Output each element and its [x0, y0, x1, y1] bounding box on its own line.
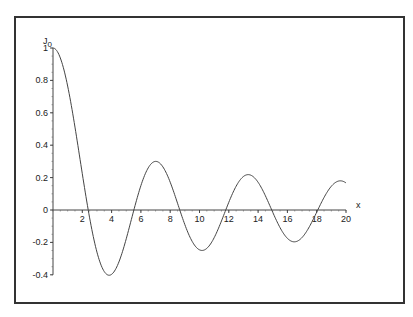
- x-tick-label: 6: [138, 214, 143, 224]
- y-tick-label: 0: [43, 205, 48, 215]
- axes: [53, 48, 346, 275]
- x-tick-label: 14: [253, 214, 263, 224]
- x-tick-label: 20: [341, 214, 351, 224]
- bessel-j0-chart: 10.80.60.40.20-0.2-0.42468101214161820 J…: [0, 0, 413, 317]
- x-tick-label: 16: [282, 214, 292, 224]
- x-tick-label: 10: [194, 214, 204, 224]
- y-tick-label: 0.8: [35, 75, 48, 85]
- x-tick-label: 8: [168, 214, 173, 224]
- y-tick-label: 0.4: [35, 140, 48, 150]
- x-axis-label: x: [356, 200, 361, 210]
- y-tick-label: 0.6: [35, 108, 48, 118]
- x-tick-label: 4: [109, 214, 114, 224]
- j0-curve: [53, 48, 346, 275]
- y-tick-label: -0.2: [32, 237, 48, 247]
- y-tick-label: 0.2: [35, 173, 48, 183]
- x-tick-label: 2: [80, 214, 85, 224]
- x-tick-label: 12: [224, 214, 234, 224]
- y-tick-label: -0.4: [32, 270, 48, 280]
